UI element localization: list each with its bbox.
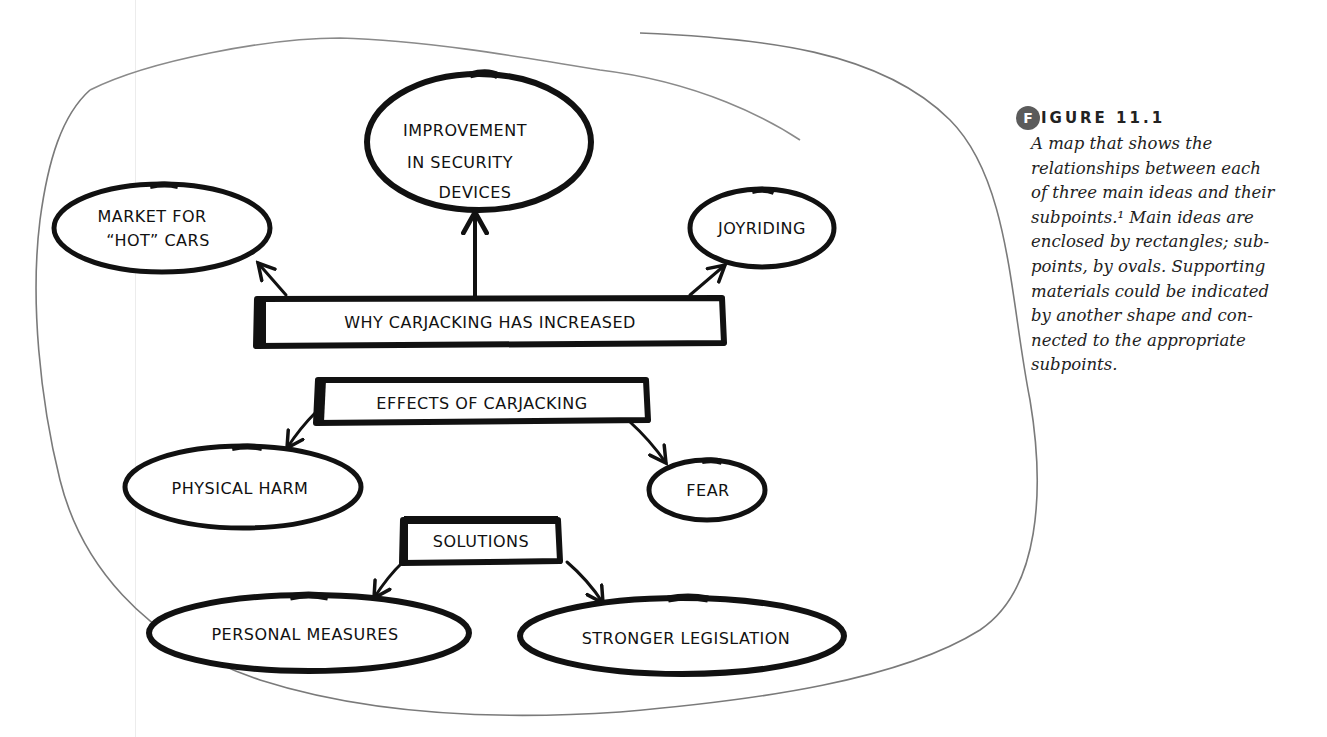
subpoint-label: PERSONAL MEASURES [211,625,398,644]
main-idea-label: SOLUTIONS [433,532,529,551]
figure-number-label: IGURE 11.1 [1041,109,1165,127]
main-idea-label: WHY CARJACKING HAS INCREASED [344,313,636,332]
figure-caption: F IGURE 11.1 A map that shows the relati… [1016,104,1316,378]
subpoint-stronger-legislation: STRONGER LEGISLATION [520,597,844,674]
arrow-to-fear [630,422,666,463]
figure-badge-icon: F [1016,106,1040,130]
subpoint-physical-harm: PHYSICAL HARM [125,446,361,528]
figure-caption-text: A map that shows the relationships betwe… [1031,132,1306,378]
arrow-to-market [258,263,286,295]
main-idea-effects-of-carjacking: EFFECTS OF CARJACKING [316,380,648,423]
subpoint-personal-measures: PERSONAL MEASURES [149,595,469,671]
subpoint-label-line3: DEVICES [438,183,511,202]
arrow-to-physical-harm [287,412,316,448]
figure-heading: F IGURE 11.1 [1016,104,1316,132]
arrow-to-personal-measures [374,562,403,598]
main-idea-why-carjacking-increased: WHY CARJACKING HAS INCREASED [256,298,724,346]
subpoint-label-line2: IN SECURITY [407,153,513,172]
subpoint-joyriding: JOYRIDING [690,189,834,267]
subpoint-label-line2: “HOT” CARS [106,231,210,250]
subpoint-label-line1: MARKET FOR [97,207,206,226]
subpoint-label-line1: IMPROVEMENT [403,121,527,140]
subpoint-improvement-security-devices: IMPROVEMENT IN SECURITY DEVICES [367,73,591,210]
subpoint-market-hot-cars: MARKET FOR “HOT” CARS [54,184,270,272]
main-idea-solutions: SOLUTIONS [402,520,560,563]
arrow-to-joyriding [690,265,725,295]
subpoint-label: PHYSICAL HARM [172,479,309,498]
arrow-to-stronger-legislation [567,562,603,603]
subpoint-fear: FEAR [649,460,765,520]
subpoint-label: STRONGER LEGISLATION [582,629,791,648]
main-idea-label: EFFECTS OF CARJACKING [376,394,587,413]
subpoint-label: FEAR [686,481,729,500]
subpoint-label: JOYRIDING [717,219,806,238]
